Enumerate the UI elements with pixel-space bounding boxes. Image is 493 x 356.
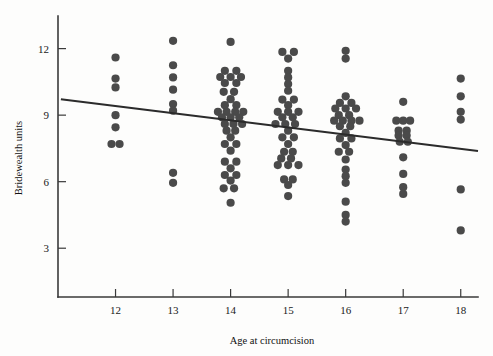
data-point — [107, 140, 115, 148]
data-point — [232, 158, 240, 166]
data-point — [227, 133, 235, 141]
data-point — [406, 117, 414, 125]
data-point — [111, 111, 119, 119]
data-point — [284, 140, 292, 148]
data-point — [290, 48, 298, 56]
data-point — [227, 147, 235, 155]
data-point — [457, 226, 465, 234]
data-point — [355, 117, 363, 125]
data-point — [278, 133, 286, 141]
data-point — [230, 184, 238, 192]
x-tick-label-12: 12 — [110, 304, 121, 316]
data-point — [227, 176, 235, 184]
data-points-group — [107, 37, 464, 235]
data-point — [290, 133, 298, 141]
data-point — [111, 74, 119, 82]
data-point — [221, 79, 229, 87]
x-axis-title: Age at circumcision — [230, 335, 315, 346]
x-tick-label-14: 14 — [225, 304, 237, 316]
data-point — [342, 47, 350, 55]
data-point — [399, 190, 407, 198]
data-point — [111, 53, 119, 61]
data-point — [169, 73, 177, 81]
data-point — [342, 54, 350, 62]
data-point — [232, 140, 240, 148]
data-point — [457, 108, 465, 116]
data-point — [227, 199, 235, 207]
data-point — [342, 92, 350, 100]
data-point — [227, 164, 235, 172]
data-point — [169, 179, 177, 187]
y-axis-title: Bridewealth units — [13, 121, 24, 195]
data-point — [284, 181, 292, 189]
data-point — [227, 95, 235, 103]
data-point — [294, 161, 302, 169]
x-tick-label-13: 13 — [168, 304, 180, 316]
data-point — [230, 88, 238, 96]
data-point — [291, 120, 299, 128]
data-point — [352, 104, 360, 112]
data-point — [274, 161, 282, 169]
x-tick-label-17: 17 — [398, 304, 410, 316]
scatter-plot-svg: 3691212131415161718 Age at circumcision … — [0, 0, 493, 356]
data-point — [336, 134, 344, 142]
data-point — [342, 198, 350, 206]
data-point — [284, 192, 292, 200]
data-point — [284, 87, 292, 95]
data-point — [227, 38, 235, 46]
data-point — [220, 184, 228, 192]
data-point — [169, 37, 177, 45]
y-tick-label-3: 3 — [44, 242, 50, 254]
data-point — [221, 158, 229, 166]
chart-figure: 3691212131415161718 Age at circumcision … — [0, 0, 493, 356]
data-point — [342, 155, 350, 163]
data-point — [231, 127, 239, 135]
data-point — [345, 148, 353, 156]
data-point — [346, 122, 354, 130]
data-point — [111, 123, 119, 131]
data-point — [169, 61, 177, 69]
data-point — [399, 170, 407, 178]
data-point — [342, 218, 350, 226]
data-point — [221, 140, 229, 148]
axis-tick-labels-group: 3691212131415161718 — [38, 43, 467, 316]
data-point — [284, 54, 292, 62]
x-tick-label-15: 15 — [283, 304, 295, 316]
data-point — [457, 185, 465, 193]
data-point — [342, 179, 350, 187]
data-point — [169, 86, 177, 94]
data-point — [111, 83, 119, 91]
data-point — [232, 79, 240, 87]
data-point — [335, 148, 343, 156]
data-point — [457, 115, 465, 123]
data-point — [169, 169, 177, 177]
data-point — [278, 48, 286, 56]
x-tick-label-16: 16 — [340, 304, 352, 316]
data-point — [115, 140, 123, 148]
y-tick-label-9: 9 — [44, 109, 50, 121]
x-tick-label-18: 18 — [455, 304, 467, 316]
data-point — [457, 74, 465, 82]
data-point — [399, 98, 407, 106]
data-point — [227, 73, 235, 81]
axes-group — [58, 16, 478, 297]
data-point — [284, 161, 292, 169]
data-point — [336, 122, 344, 130]
y-tick-label-6: 6 — [44, 176, 50, 188]
data-point — [399, 153, 407, 161]
data-point — [457, 92, 465, 100]
y-tick-label-12: 12 — [38, 43, 49, 55]
data-point — [220, 88, 228, 96]
